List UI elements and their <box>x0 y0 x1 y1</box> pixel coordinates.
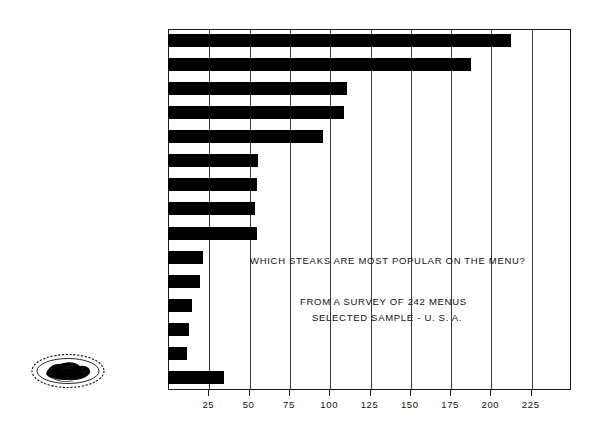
bar <box>168 227 257 240</box>
x-tick-100 <box>329 390 330 396</box>
x-tick-175 <box>450 390 451 396</box>
bar-row: RIB-EYE <box>168 197 571 221</box>
bar <box>168 34 511 47</box>
bar-row: KANSAS CITY <box>168 342 571 366</box>
bar <box>168 58 471 71</box>
bar-row: STEAK SANDWICH <box>168 173 571 197</box>
x-tick-label-175: 175 <box>430 399 470 410</box>
x-tick-label-75: 75 <box>269 399 309 410</box>
x-tick-150 <box>410 390 411 396</box>
annotation-question: WHICH STEAKS ARE MOST POPULAR ON THE MEN… <box>250 255 526 266</box>
x-tick-label-200: 200 <box>470 399 510 410</box>
x-tick-75 <box>289 390 290 396</box>
x-tick-125 <box>370 390 371 396</box>
bar <box>168 154 258 167</box>
bar-row: CHOPPED STEAK <box>168 77 571 101</box>
x-tick-label-50: 50 <box>229 399 269 410</box>
x-tick-50 <box>249 390 250 396</box>
x-tick-label-225: 225 <box>511 399 551 410</box>
bar-row: T-BONE <box>168 125 571 149</box>
x-tick-label-150: 150 <box>390 399 430 410</box>
steak-platter-icon <box>30 352 106 390</box>
bar-row: CHATEAUBRIAND <box>168 270 571 294</box>
bar <box>168 178 257 191</box>
annotation-source-line2: SELECTED SAMPLE - U. S. A. <box>312 312 462 323</box>
bar <box>168 347 187 360</box>
x-tick-25 <box>208 390 209 396</box>
bar-row: FILET MIGNON <box>168 53 571 77</box>
bar-row: NEW YORK STRIP <box>168 101 571 125</box>
bar-chart: SIRLOINFILET MIGNONCHOPPED STEAKNEW YORK… <box>0 0 599 433</box>
bar <box>168 371 224 384</box>
bar-row: SIRLOIN <box>168 29 571 53</box>
bar <box>168 106 344 119</box>
bar <box>168 275 200 288</box>
bar <box>168 299 192 312</box>
bar-row: BUTT SIRLOIN - (CLUB) <box>168 149 571 173</box>
bar-rows: SIRLOINFILET MIGNONCHOPPED STEAKNEW YORK… <box>168 29 571 390</box>
bar-row: TENDERLOIN <box>168 222 571 246</box>
bar <box>168 323 189 336</box>
x-tick-label-125: 125 <box>350 399 390 410</box>
bar <box>168 251 203 264</box>
bar <box>168 202 255 215</box>
x-tick-200 <box>490 390 491 396</box>
x-tick-label-25: 25 <box>188 399 228 410</box>
x-tick-225 <box>531 390 532 396</box>
x-tick-label-100: 100 <box>309 399 349 410</box>
bar <box>168 130 323 143</box>
bar-row: OTHER <box>168 366 571 390</box>
annotation-source-line1: FROM A SURVEY OF 242 MENUS <box>300 296 467 307</box>
bar <box>168 82 347 95</box>
